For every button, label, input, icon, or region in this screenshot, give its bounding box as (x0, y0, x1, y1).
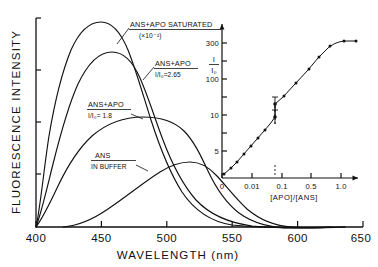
inset-x-label-0: 0 (220, 182, 224, 191)
x-tick-label-650: 650 (351, 232, 371, 244)
inset-y-title-denom: I₀ (211, 66, 217, 75)
callout-1-line2: (×10⁻²) (139, 32, 161, 40)
inset-x-axis-title: [APO]/[ANS] (270, 193, 318, 202)
callout-4-line2: IN BUFFER (91, 163, 127, 170)
inset-y-label-100: 100 (206, 75, 219, 84)
x-tick-label-550: 550 (222, 232, 242, 244)
inset-x-label-01: 0.1 (276, 182, 287, 191)
callout-3-line2: I/I₀= 1.8 (88, 112, 112, 119)
x-tick-label-500: 500 (157, 232, 177, 244)
inset-y-label-10: 10 (210, 111, 219, 120)
callout-3-line1: ANS+APO (88, 100, 124, 109)
x-tick-label-600: 600 (287, 232, 307, 244)
figure-container: 400 450 500 550 600 650 WAVELENGTH (nm) … (0, 0, 378, 267)
inset-x-label-001: 0.01 (244, 182, 260, 191)
x-tick-label-450: 450 (91, 232, 111, 244)
callout-4-line1: ANS (95, 151, 110, 160)
inset-x-label-05: 0.5 (305, 182, 316, 191)
fluorescence-spectra-figure: 400 450 500 550 600 650 WAVELENGTH (nm) … (0, 0, 378, 267)
callout-2-line2: I/I₀=2.65 (155, 71, 181, 78)
inset-y-title-numer: I (213, 55, 215, 64)
y-axis-title: FLUORESCENCE INTENSITY (10, 30, 22, 214)
callout-2-line1: ANS+APO (155, 59, 191, 68)
x-tick-label-400: 400 (26, 232, 46, 244)
x-axis-title: WAVELENGTH (nm) (117, 249, 240, 261)
inset-y-label-300: 300 (206, 39, 219, 48)
inset-y-label-5: 5 (215, 147, 219, 156)
callout-1-line1: ANS+APO SATURATED (130, 20, 212, 29)
inset-x-label-10: 1.0 (335, 182, 346, 191)
